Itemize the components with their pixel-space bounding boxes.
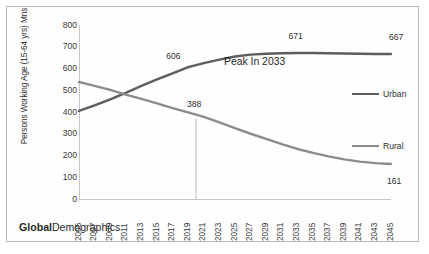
- x-axis-tick: 2013: [137, 223, 145, 241]
- y-axis-tick: 300: [47, 129, 77, 138]
- data-label-606: 606: [166, 51, 180, 61]
- chart-frame: Persons Working Age (15-64 yrs) Mns 8007…: [6, 6, 419, 242]
- x-axis-tick: 2041: [355, 223, 363, 241]
- x-axis-line: [79, 199, 391, 200]
- x-axis-tick: 2027: [246, 223, 254, 241]
- y-axis-tick: 700: [47, 42, 77, 51]
- x-axis-tick: 2045: [387, 223, 395, 241]
- annotation-peak: Peak In 2033: [224, 56, 285, 67]
- x-axis-tick: 2043: [371, 223, 379, 241]
- y-axis-tick: 100: [47, 173, 77, 182]
- x-axis-tick: 2023: [215, 223, 223, 241]
- x-axis-tick: 2029: [262, 223, 270, 241]
- legend-label: Urban: [383, 89, 406, 99]
- legend-swatch-icon: [352, 145, 379, 148]
- y-axis-tick: 800: [47, 21, 77, 30]
- y-axis-tick: 600: [47, 64, 77, 73]
- x-axis-tick: 2033: [293, 223, 301, 241]
- legend-item-urban[interactable]: Urban: [352, 89, 406, 99]
- x-axis-tick: 2015: [153, 223, 161, 241]
- x-axis-tick: 2019: [184, 223, 192, 241]
- x-axis-tick: 2035: [309, 223, 317, 241]
- data-label-161: 161: [387, 176, 401, 186]
- y-axis-tick: 500: [47, 86, 77, 95]
- brand-logo: GlobalDemographics: [19, 221, 120, 233]
- y-axis-title: Persons Working Age (15-64 yrs) Mns: [19, 0, 29, 161]
- y-axis-tick: 0: [47, 195, 77, 204]
- y-axis-tick-labels: 8007006005004003002001000: [47, 19, 77, 205]
- x-axis-tick: 2021: [199, 223, 207, 241]
- legend-label: Rural: [383, 141, 404, 151]
- brand-bold: Global: [19, 221, 52, 233]
- line-series-rural: [79, 82, 391, 164]
- series-lines: [79, 25, 391, 199]
- data-label-671: 671: [288, 31, 302, 41]
- legend-item-rural[interactable]: Rural: [352, 141, 404, 151]
- x-axis-tick: 2031: [277, 223, 285, 241]
- x-axis-tick: 2011: [121, 223, 129, 241]
- data-label-667: 667: [389, 32, 403, 42]
- data-label-388: 388: [187, 99, 201, 109]
- plot-area: [79, 25, 391, 199]
- legend-swatch-icon: [352, 93, 379, 96]
- y-axis-tick: 400: [47, 108, 77, 117]
- x-axis-tick: 2039: [340, 223, 348, 241]
- x-axis-tick: 2037: [324, 223, 332, 241]
- x-axis-tick: 2025: [231, 223, 239, 241]
- y-axis-tick: 200: [47, 151, 77, 160]
- x-axis-tick: 2017: [168, 223, 176, 241]
- brand-regular: Demographics: [52, 221, 120, 233]
- x-axis-tick-labels: 2005200720092011201320152017201920212023…: [79, 201, 391, 241]
